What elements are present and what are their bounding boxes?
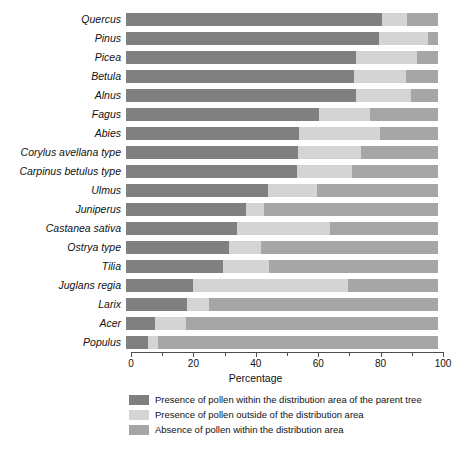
legend-item[interactable]: Presence of pollen within the distributi… [129,393,459,406]
category-label: Juniperus [0,204,126,215]
bar-segment [193,279,348,292]
category-label: Pinus [0,33,126,44]
bar-segment [297,165,352,178]
bar-segment [126,108,319,121]
bar-segment [382,13,407,26]
category-label: Abies [0,128,126,139]
bar-track [126,89,438,102]
bar-segment [299,127,379,140]
bar-segment [187,298,209,311]
bar-segment [126,32,379,45]
category-label: Acer [0,318,126,329]
category-label: Ulmus [0,185,126,196]
chart-row: Populus [0,333,467,352]
category-label: Betula [0,71,126,82]
bar-segment [411,89,438,102]
bar-segment [317,184,438,197]
category-label: Tilia [0,261,126,272]
bar-segment [223,260,269,273]
category-label: Corylus avellana type [0,147,126,158]
x-axis-tick [256,352,257,357]
bar-segment [126,184,268,197]
chart-legend: Presence of pollen within the distributi… [129,393,459,438]
bar-segment [264,203,438,216]
bar-track [126,317,438,330]
category-label: Larix [0,299,126,310]
x-axis-tick [318,352,319,357]
chart-row: Castanea sativa [0,219,467,238]
bar-segment [126,336,148,349]
chart-row: Tilia [0,257,467,276]
category-label: Populus [0,337,126,348]
bar-segment [126,146,298,159]
bar-segment [126,222,237,235]
chart-row: Abies [0,124,467,143]
x-axis-tick [412,352,413,356]
x-axis: 020406080100 [131,352,443,353]
x-axis-tick [443,352,444,357]
bar-segment [356,89,411,102]
chart-row: Juniperus [0,200,467,219]
bar-segment [126,70,354,83]
category-label: Carpinus betulus type [0,166,126,177]
bar-track [126,32,438,45]
legend-swatch [129,425,149,435]
bar-track [126,336,438,349]
bar-segment [246,203,264,216]
x-axis-tick-label: 100 [435,358,452,369]
chart-row: Picea [0,48,467,67]
bar-segment [126,127,299,140]
bar-segment [148,336,158,349]
category-label: Quercus [0,14,126,25]
bar-segment [229,241,261,254]
bar-segment [126,89,356,102]
bar-track [126,222,438,235]
bar-track [126,260,438,273]
chart-row: Quercus [0,10,467,29]
bar-track [126,51,438,64]
bar-segment [126,165,297,178]
bar-segment [406,70,438,83]
bar-segment [158,336,438,349]
bar-segment [298,146,361,159]
x-axis-tick [193,352,194,357]
chart-row: Carpinus betulus type [0,162,467,181]
bar-segment [269,260,438,273]
chart-row: Pinus [0,29,467,48]
legend-item[interactable]: Presence of pollen outside of the distri… [129,408,459,421]
category-label: Alnus [0,90,126,101]
bar-track [126,70,438,83]
bar-segment [356,51,418,64]
legend-item[interactable]: Absence of pollen within the distributio… [129,423,459,436]
category-label: Castanea sativa [0,223,126,234]
legend-swatch [129,395,149,405]
bar-segment [319,108,370,121]
category-label: Picea [0,52,126,63]
bar-segment [126,51,356,64]
bar-segment [428,32,438,45]
bar-track [126,146,438,159]
x-axis-tick-label: 0 [128,358,134,369]
bar-track [126,108,438,121]
x-axis-tick-label: 20 [188,358,199,369]
bar-segment [126,298,187,311]
bar-segment [126,317,155,330]
x-axis-tick-label: 40 [250,358,261,369]
bar-track [126,13,438,26]
bar-segment [407,13,438,26]
chart-row: Fagus [0,105,467,124]
bar-segment [380,127,438,140]
chart-row: Ostrya type [0,238,467,257]
chart-row: Betula [0,67,467,86]
bar-segment [261,241,438,254]
bar-segment [209,298,438,311]
x-axis-title: Percentage [0,372,467,384]
category-label: Juglans regia [0,280,126,291]
x-axis-tick [225,352,226,356]
chart-row: Ulmus [0,181,467,200]
bar-track [126,298,438,311]
x-axis-tick [287,352,288,356]
legend-label: Absence of pollen within the distributio… [155,425,344,435]
bar-segment [379,32,428,45]
stacked-bar-chart: QuercusPinusPiceaBetulaAlnusFagusAbiesCo… [0,0,467,456]
